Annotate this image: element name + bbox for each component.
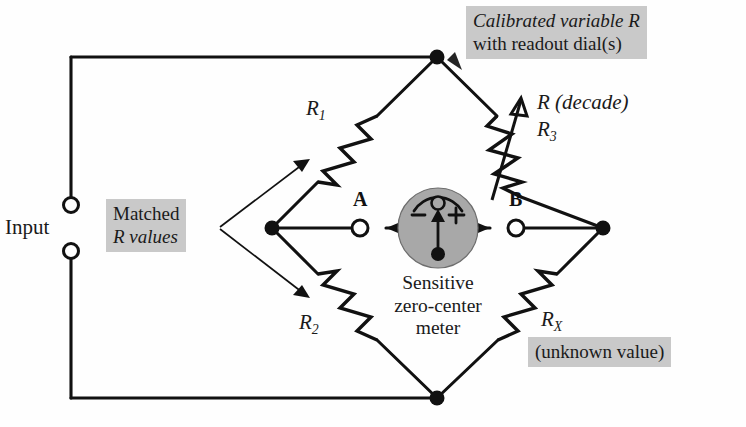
resistor-r1-zigzag xyxy=(318,116,377,185)
terminal-b[interactable] xyxy=(508,220,524,236)
resistor-label-r2-base: R xyxy=(299,310,312,334)
bridge-node-right xyxy=(596,221,611,236)
resistor-label-r1-sub: 1 xyxy=(319,108,326,123)
callout-unknown-value: (unknown value) xyxy=(528,337,671,367)
input-label: Input xyxy=(5,215,49,240)
bridge-node-left xyxy=(265,221,280,236)
meter-zero-ring xyxy=(432,197,445,210)
matched-callout-leader-lower xyxy=(220,229,307,296)
resistor-label-r1: R1 xyxy=(306,96,326,124)
resistor-label-r3-base: R xyxy=(537,117,550,141)
decade-label-text: R (decade) xyxy=(537,90,629,114)
resistor-label-rx-base: R xyxy=(541,307,554,331)
callout-unknown-line1-text: (unknown value) xyxy=(535,341,664,362)
bridge-node-top xyxy=(430,50,445,65)
terminal-a[interactable] xyxy=(352,220,368,236)
resistor-label-r2-sub: 2 xyxy=(312,322,319,337)
callout-calibrated-line1: Calibrated variable R xyxy=(473,9,640,32)
resistor-label-r3-sub: 3 xyxy=(550,129,557,144)
callout-matched-line1-text: Matched xyxy=(113,203,179,224)
resistor-label-r1-base: R xyxy=(306,96,319,120)
meter-pivot-dot xyxy=(431,247,445,261)
callout-matched-line2-text: R values xyxy=(113,226,178,247)
decade-label: R (decade) xyxy=(537,90,629,115)
input-terminal-top[interactable] xyxy=(64,198,79,213)
meter-caption-line3: meter xyxy=(348,317,528,340)
input-terminal-bottom[interactable] xyxy=(64,244,79,259)
terminal-b-label: B xyxy=(509,188,522,211)
resistor-label-r3: R3 xyxy=(537,117,557,145)
callout-matched-line1: Matched xyxy=(113,202,179,225)
wire-arm-bottom-right-upper xyxy=(557,228,603,274)
meter-caption-line1: Sensitive xyxy=(348,272,528,295)
callout-calibrated-variable: Calibrated variable R with readout dial(… xyxy=(466,6,647,59)
meter-caption-line2: zero-center xyxy=(348,295,528,318)
callout-calibrated-line2-text: with readout dial(s) xyxy=(473,33,622,54)
wheatstone-bridge-diagram: Wheatstone bridge circuit xyxy=(0,0,746,427)
terminal-a-label: A xyxy=(353,188,367,211)
wire-arm-bottom-left-lower xyxy=(377,340,437,398)
matched-callout-leader-upper xyxy=(220,161,307,227)
resistor-label-rx-sub: X xyxy=(554,319,562,334)
bridge-node-bottom xyxy=(430,391,445,406)
meter-caption: Sensitive zero-center meter xyxy=(348,272,528,340)
wire-arm-bottom-left-upper xyxy=(272,228,318,274)
resistor-label-rx: RX xyxy=(541,307,562,335)
callout-matched-line2: R values xyxy=(113,225,179,248)
wire-arm-top-left-upper xyxy=(377,57,437,116)
callout-matched-r-values: Matched R values xyxy=(106,199,186,252)
wire-arm-bottom-right-lower xyxy=(437,340,498,398)
wire-arm-top-right-lower xyxy=(521,197,603,228)
callout-calibrated-line2: with readout dial(s) xyxy=(473,32,640,55)
resistor-label-r2: R2 xyxy=(299,310,319,338)
wire-arm-top-right-upper xyxy=(437,57,497,116)
wire-arm-top-left-lower xyxy=(272,182,318,228)
callout-calibrated-line1-text: Calibrated variable R xyxy=(473,10,640,31)
